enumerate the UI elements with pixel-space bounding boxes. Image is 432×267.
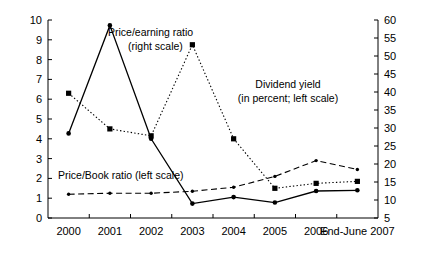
- right-axis-tick-label: 40: [384, 86, 396, 98]
- data-point-marker: [355, 188, 360, 193]
- right-axis-tick-label: 25: [384, 140, 396, 152]
- data-point-marker: [107, 126, 112, 131]
- x-axis-tick-label: 2003: [180, 225, 204, 237]
- data-point-marker: [66, 131, 71, 136]
- left-axis-tick-label: 1: [36, 192, 42, 204]
- right-axis-tick-label: 10: [384, 194, 396, 206]
- pe-annotation: Price/earning ratio(right scale): [108, 26, 193, 52]
- series-line: [69, 45, 358, 189]
- right-axis-tick-label: 35: [384, 104, 396, 116]
- left-axis-tick-label: 9: [36, 34, 42, 46]
- right-axis-tick-label: 30: [384, 122, 396, 134]
- left-axis-tick-label: 3: [36, 153, 42, 165]
- right-axis-tick-label: 60: [384, 14, 396, 26]
- data-point-marker: [356, 168, 359, 171]
- data-point-marker: [355, 179, 360, 184]
- data-point-marker: [273, 175, 276, 178]
- left-axis-tick-label: 2: [36, 172, 42, 184]
- data-point-marker: [273, 200, 278, 205]
- pb-annotation-line1: Price/Book ratio (left scale): [58, 169, 183, 181]
- x-axis-tick-label: 2005: [263, 225, 287, 237]
- left-axis-tick-label: 0: [36, 212, 42, 224]
- data-point-marker: [191, 190, 194, 193]
- right-axis-tick-label: 45: [384, 68, 396, 80]
- x-axis-tick-label: 2002: [139, 225, 163, 237]
- data-point-marker: [108, 192, 111, 195]
- left-axis-tick-label: 5: [36, 113, 42, 125]
- price-ratio-line-chart: 0123456789105101520253035404550556020002…: [0, 0, 432, 267]
- pe-annotation-line1: Price/earning ratio: [108, 26, 193, 38]
- right-axis-tick-label: 5: [384, 212, 390, 224]
- data-point-marker: [314, 159, 317, 162]
- right-axis-tick-label: 55: [384, 32, 396, 44]
- data-point-marker: [190, 201, 195, 206]
- data-point-marker: [232, 186, 235, 189]
- left-axis-tick-label: 4: [36, 133, 42, 145]
- chart-container: 0123456789105101520253035404550556020002…: [0, 0, 432, 267]
- right-axis-tick-label: 15: [384, 176, 396, 188]
- x-axis-tick-label: 2000: [56, 225, 80, 237]
- data-point-marker: [314, 189, 319, 194]
- left-axis-tick-label: 10: [30, 14, 42, 26]
- data-point-marker: [231, 195, 236, 200]
- dy-annotation-line1: Dividend yield: [255, 78, 321, 90]
- left-axis-tick-label: 6: [36, 93, 42, 105]
- pb-annotation: Price/Book ratio (left scale): [58, 169, 183, 181]
- data-point-marker: [314, 181, 319, 186]
- dy-annotation: Dividend yield(in percent; left scale): [238, 78, 338, 104]
- data-point-marker: [272, 186, 277, 191]
- dy-annotation-line2: (in percent; left scale): [238, 92, 338, 104]
- data-point-marker: [149, 133, 154, 138]
- pe-annotation-line2: (right scale): [128, 40, 183, 52]
- left-axis-tick-label: 8: [36, 54, 42, 66]
- data-point-marker: [66, 91, 71, 96]
- left-axis-tick-label: 7: [36, 73, 42, 85]
- x-axis-tick-label: End-June 2007: [320, 225, 395, 237]
- right-axis-tick-label: 50: [384, 50, 396, 62]
- data-point-marker: [190, 42, 195, 47]
- right-axis-tick-label: 20: [384, 158, 396, 170]
- data-point-marker: [231, 136, 236, 141]
- x-axis-tick-label: 2004: [221, 225, 245, 237]
- data-point-marker: [149, 192, 152, 195]
- data-point-marker: [67, 193, 70, 196]
- x-axis-tick-label: 2001: [98, 225, 122, 237]
